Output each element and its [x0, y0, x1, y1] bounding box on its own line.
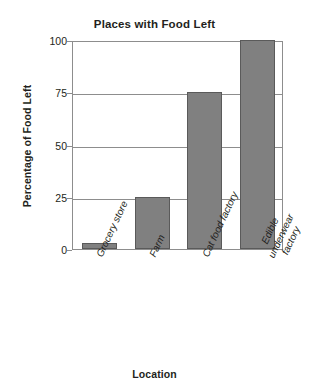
y-axis-tick-mark — [67, 146, 72, 147]
x-axis-tick-label: Cat food factory — [200, 190, 240, 259]
y-axis-tick-mark — [67, 198, 72, 199]
y-axis-tick-mark — [67, 41, 72, 42]
bar-chart-figure: Places with Food Left Percentage of Food… — [0, 0, 309, 392]
x-axis-tick-label: Farm — [147, 233, 167, 259]
y-axis-tick-mark — [67, 250, 72, 251]
x-axis-tick-labels: Grocery storeFarmCat food factoryEdible … — [0, 0, 309, 392]
x-axis-tick-label: Edible underwear factory — [253, 203, 308, 269]
y-axis-tick-mark — [67, 93, 72, 94]
x-axis-title: Location — [0, 368, 309, 380]
x-axis-tick-label: Grocery store — [94, 199, 130, 259]
